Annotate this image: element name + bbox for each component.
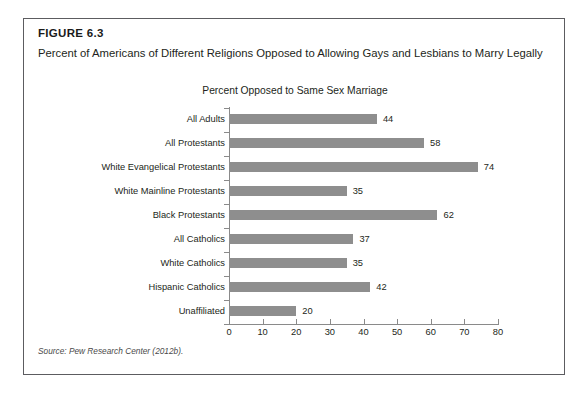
x-axis-tick-label: 40	[358, 327, 368, 337]
category-label: All Protestants	[24, 131, 225, 155]
x-axis-tick-label: 0	[226, 327, 231, 337]
bar-value-label: 35	[353, 179, 363, 203]
x-axis-tick	[263, 319, 264, 325]
bar-row: White Evangelical Protestants74	[24, 155, 566, 179]
chart-area: Percent Opposed to Same Sex Marriage All…	[24, 85, 566, 335]
bar-row: All Adults44	[24, 107, 566, 131]
x-axis-tick-label: 50	[392, 327, 402, 337]
category-label: All Catholics	[24, 227, 225, 251]
bar-row: Hispanic Catholics42	[24, 275, 566, 299]
category-label: White Catholics	[24, 251, 225, 275]
bar	[229, 306, 296, 316]
x-axis-tick	[498, 319, 499, 325]
y-axis-tick	[224, 300, 229, 301]
source-note: Source: Pew Research Center (2012b).	[38, 346, 183, 356]
x-axis-tick	[330, 319, 331, 325]
bar-value-label: 35	[353, 251, 363, 275]
x-axis-tick-label: 10	[257, 327, 267, 337]
figure-box: FIGURE 6.3 Percent of Americans of Diffe…	[23, 18, 565, 375]
y-axis-tick	[224, 276, 229, 277]
bar	[229, 114, 377, 124]
bar	[229, 258, 347, 268]
y-axis-tick	[224, 252, 229, 253]
category-label: Hispanic Catholics	[24, 275, 225, 299]
figure-title: Percent of Americans of Different Religi…	[38, 45, 543, 62]
x-axis-tick	[296, 319, 297, 325]
bar-value-label: 58	[430, 131, 440, 155]
figure-number: FIGURE 6.3	[38, 27, 104, 39]
bar	[229, 282, 370, 292]
bar-row: White Mainline Protestants35	[24, 179, 566, 203]
y-axis-tick	[224, 108, 229, 109]
category-label: Unaffiliated	[24, 299, 225, 323]
bar-row: All Protestants58	[24, 131, 566, 155]
chart-title: Percent Opposed to Same Sex Marriage	[24, 85, 566, 96]
y-axis-tick	[224, 156, 229, 157]
x-axis-tick	[464, 319, 465, 325]
category-label: White Mainline Protestants	[24, 179, 225, 203]
bar	[229, 162, 478, 172]
x-axis-tick-label: 70	[459, 327, 469, 337]
bar-value-label: 37	[359, 227, 369, 251]
x-axis-tick-label: 20	[291, 327, 301, 337]
x-axis-tick	[364, 319, 365, 325]
x-axis-tick	[431, 319, 432, 325]
bar	[229, 186, 347, 196]
bar-value-label: 62	[443, 203, 453, 227]
x-axis-tick-label: 30	[325, 327, 335, 337]
y-axis-tick	[224, 132, 229, 133]
category-label: All Adults	[24, 107, 225, 131]
x-axis-tick-label: 60	[426, 327, 436, 337]
x-axis-tick	[229, 319, 230, 325]
bar-value-label: 42	[376, 275, 386, 299]
x-axis-tick	[397, 319, 398, 325]
bar-row: Unaffiliated20	[24, 299, 566, 323]
category-label: White Evangelical Protestants	[24, 155, 225, 179]
bar	[229, 210, 437, 220]
bar	[229, 138, 424, 148]
bar-value-label: 44	[383, 107, 393, 131]
y-axis-tick	[224, 228, 229, 229]
y-axis-tick	[224, 204, 229, 205]
x-axis-tick-label: 80	[493, 327, 503, 337]
bar-chart-plot: All Adults44All Protestants58White Evang…	[24, 107, 566, 335]
bar-row: Black Protestants62	[24, 203, 566, 227]
bar-value-label: 20	[302, 299, 312, 323]
category-label: Black Protestants	[24, 203, 225, 227]
bar	[229, 234, 353, 244]
y-axis-tick	[224, 180, 229, 181]
bar-row: All Catholics37	[24, 227, 566, 251]
bar-row: White Catholics35	[24, 251, 566, 275]
bar-value-label: 74	[484, 155, 494, 179]
